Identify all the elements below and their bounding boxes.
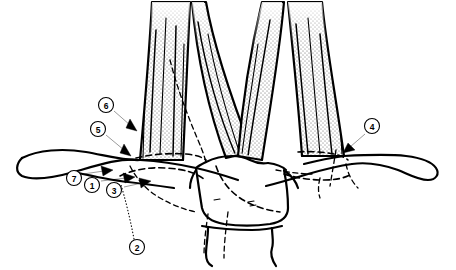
- anatomical-figure: 6 5 7 1 3 2: [0, 0, 456, 270]
- callout-2[interactable]: 2: [130, 240, 145, 255]
- callout-3-number: 3: [112, 186, 117, 196]
- callout-6[interactable]: 6: [99, 98, 114, 113]
- callout-4[interactable]: 4: [365, 119, 380, 134]
- callout-1[interactable]: 1: [85, 178, 100, 193]
- callout-4-number: 4: [370, 122, 375, 132]
- callout-1-number: 1: [90, 181, 95, 191]
- callout-7-number: 7: [72, 174, 77, 184]
- callout-5-number: 5: [96, 125, 101, 135]
- figure-canvas: 6 5 7 1 3 2: [0, 0, 456, 270]
- callout-3[interactable]: 3: [107, 183, 122, 198]
- callout-2-number: 2: [135, 243, 140, 253]
- callout-7[interactable]: 7: [67, 171, 82, 186]
- callout-6-number: 6: [104, 101, 109, 111]
- callout-5[interactable]: 5: [91, 122, 106, 137]
